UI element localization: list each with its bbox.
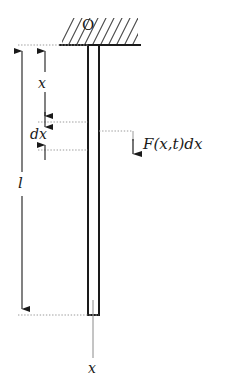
length-dimension-label: l xyxy=(18,176,23,191)
force-label: F(x,t)dx xyxy=(143,137,202,152)
x-dimension-label: x xyxy=(38,76,46,90)
rod-diagram-figure: O x dx l F(x,t)dx x xyxy=(0,0,230,390)
support-point-label: O xyxy=(82,18,94,33)
force-leader xyxy=(99,131,133,154)
rod-body xyxy=(88,45,99,315)
extension-lines xyxy=(18,45,99,315)
diagram-canvas xyxy=(0,0,230,390)
dx-dimension-label: dx xyxy=(30,127,47,141)
x-axis-label: x xyxy=(88,361,96,375)
